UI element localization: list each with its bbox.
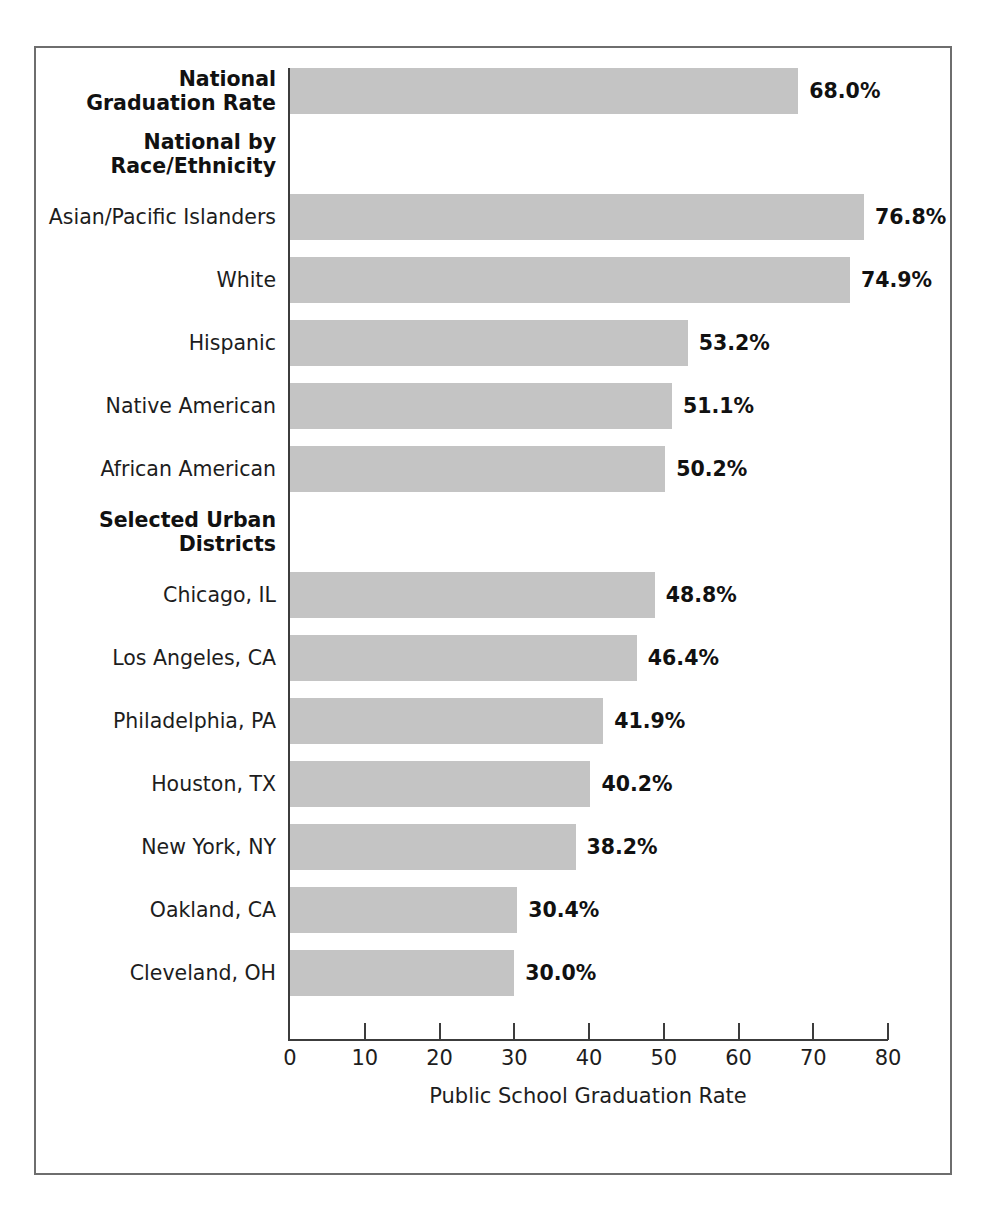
bar [290,761,590,807]
bar-row: Chicago, IL48.8% [36,572,950,618]
bar-row: New York, NY38.2% [36,824,950,870]
x-axis-tick [588,1023,590,1040]
x-axis-tick-label: 80 [875,1046,902,1071]
group-header-row: National by Race/Ethnicity [36,131,950,177]
bar-row: White74.9% [36,257,950,303]
bar [290,698,603,744]
bar-category-label: Houston, TX [34,772,284,796]
bar [290,887,517,933]
bar-row: Philadelphia, PA41.9% [36,698,950,744]
bar-value-label: 74.9% [861,268,932,292]
bar-value-label: 51.1% [683,394,754,418]
group-header-row: Selected Urban Districts [36,509,950,555]
x-axis-tick-label: 70 [800,1046,827,1071]
bar-value-label: 53.2% [699,331,770,355]
bar-row: Houston, TX40.2% [36,761,950,807]
bar-row: Asian/Pacific Islanders76.8% [36,194,950,240]
x-axis-tick-label: 60 [725,1046,752,1071]
bar-chart-plot: National Graduation Rate68.0%National by… [36,48,950,1173]
bar-value-label: 76.8% [875,205,946,229]
bar-value-label: 30.4% [528,898,599,922]
bar-category-label: Native American [34,394,284,418]
group-header-label: National by Race/Ethnicity [34,130,284,178]
bar-category-label: Hispanic [34,331,284,355]
bar [290,320,688,366]
bar-row: Oakland, CA30.4% [36,887,950,933]
bar [290,68,798,114]
chart-figure-frame: National Graduation Rate68.0%National by… [34,46,952,1175]
bar-row: National Graduation Rate68.0% [36,68,950,114]
bar-category-label: Los Angeles, CA [34,646,284,670]
bar-row: Hispanic53.2% [36,320,950,366]
x-axis-tick [364,1023,366,1040]
x-axis-title: Public School Graduation Rate [288,1084,888,1109]
bar [290,635,637,681]
bar-category-label: Oakland, CA [34,898,284,922]
x-axis-tick-label: 50 [650,1046,677,1071]
bar [290,257,850,303]
x-axis-tick-label: 0 [283,1046,296,1071]
x-axis-tick [439,1023,441,1040]
bar-category-label: Philadelphia, PA [34,709,284,733]
x-axis-tick [513,1023,515,1040]
bar-category-label: National Graduation Rate [34,67,284,115]
bar-value-label: 41.9% [614,709,685,733]
bar [290,446,665,492]
x-axis-tick [738,1023,740,1040]
x-axis-tick [812,1023,814,1040]
bar-category-label: New York, NY [34,835,284,859]
bar-row: African American50.2% [36,446,950,492]
bar-value-label: 38.2% [587,835,658,859]
bar-category-label: African American [34,457,284,481]
bar [290,824,576,870]
bar [290,572,655,618]
bar-category-label: Chicago, IL [34,583,284,607]
bar-value-label: 30.0% [525,961,596,985]
bar-category-label: White [34,268,284,292]
bar-value-label: 50.2% [676,457,747,481]
bar-value-label: 46.4% [648,646,719,670]
x-axis-tick-label: 10 [351,1046,378,1071]
bar [290,383,672,429]
bar [290,950,514,996]
bar-row: Native American51.1% [36,383,950,429]
bar-value-label: 68.0% [809,79,880,103]
x-axis-tick [663,1023,665,1040]
bar-value-label: 48.8% [666,583,737,607]
x-axis-tick-label: 40 [576,1046,603,1071]
x-axis-tick-label: 20 [426,1046,453,1071]
x-axis-tick [887,1023,889,1040]
bar-row: Los Angeles, CA46.4% [36,635,950,681]
x-axis-tick-label: 30 [501,1046,528,1071]
bar-value-label: 40.2% [601,772,672,796]
bar-row: Cleveland, OH30.0% [36,950,950,996]
bar [290,194,864,240]
bar-category-label: Asian/Pacific Islanders [34,205,284,229]
bar-category-label: Cleveland, OH [34,961,284,985]
group-header-label: Selected Urban Districts [34,508,284,556]
